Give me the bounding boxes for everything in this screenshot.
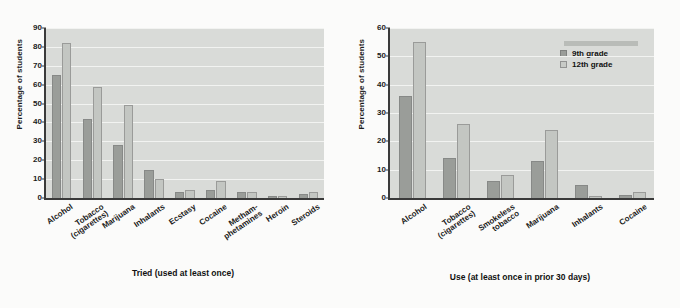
bar-group: Steroids <box>293 28 324 198</box>
bar <box>62 43 71 198</box>
bar <box>52 75 61 198</box>
chart-panel-tried: Percentage of students 01020304050607080… <box>0 0 340 308</box>
y-axis-tick-label: 80 <box>33 43 42 51</box>
bar <box>216 181 225 198</box>
bar-group: Alcohol <box>46 28 77 198</box>
bar <box>247 192 256 198</box>
bar <box>633 192 646 198</box>
bar-group: Smokelesstobacco <box>478 28 522 198</box>
y-axis-tick-label: 60 <box>33 81 42 89</box>
bar-group: Alcohol <box>390 28 434 198</box>
bar <box>309 192 318 198</box>
bar-group: Inhalants <box>566 28 610 198</box>
x-axis-tick-label: Tobacco(cigarettes) <box>432 203 477 241</box>
y-axis-tick-label: 40 <box>33 118 42 126</box>
y-axis-tick-label: 60 <box>377 24 386 32</box>
bar-group: Tobacco(cigarettes) <box>77 28 108 198</box>
bar <box>206 190 215 198</box>
bar-group: Marijuana <box>522 28 566 198</box>
y-axis-tick-label: 30 <box>33 137 42 145</box>
bar-group: Heroin <box>262 28 293 198</box>
x-axis-title-left: Tried (used at least once) <box>44 268 322 278</box>
bar <box>443 158 456 198</box>
bar <box>278 196 287 198</box>
y-axis-tick-label: 20 <box>377 137 386 145</box>
x-axis-tick-label: Inhalants <box>571 203 605 230</box>
bar <box>399 96 412 198</box>
y-axis-tick-label: 50 <box>377 52 386 60</box>
y-axis-tick-label: 40 <box>377 81 386 89</box>
bar <box>413 42 426 198</box>
bar <box>531 161 544 198</box>
bar <box>124 105 133 198</box>
y-axis-tick-label: 30 <box>377 109 386 117</box>
bar-group: Metham-phetamines <box>231 28 262 198</box>
bar <box>237 192 246 198</box>
x-axis-tick-label: Marijuana <box>525 203 561 231</box>
bar-group: Tobacco(cigarettes) <box>434 28 478 198</box>
y-axis-tick-label: 10 <box>33 175 42 183</box>
bar <box>487 181 500 198</box>
y-axis-tick-label: 90 <box>33 24 42 32</box>
y-axis-title-right: Percentage of students <box>357 40 366 130</box>
bar-group: Cocaine <box>200 28 231 198</box>
bar <box>155 179 164 198</box>
x-axis-tick-label: Cocaine <box>618 203 648 227</box>
bar <box>299 194 308 198</box>
bar-group: Marijuana <box>108 28 139 198</box>
bar <box>175 192 184 198</box>
bar <box>144 170 153 198</box>
bar <box>457 124 470 198</box>
x-axis-tick-label: Alcohol <box>399 203 428 226</box>
y-axis-tick-label: 20 <box>33 156 42 164</box>
x-axis-tick-label: Ecstasy <box>168 203 198 227</box>
plot-area-left: 0102030405060708090AlcoholTobacco(cigare… <box>44 28 324 200</box>
x-axis-tick-label: Heroin <box>265 203 291 224</box>
bar <box>83 119 92 198</box>
bar <box>268 196 277 198</box>
bar-group: Ecstasy <box>170 28 201 198</box>
y-axis-tick-label: 10 <box>377 166 386 174</box>
plot-area-right: 9th grade 12th grade 0102030405060Alcoho… <box>388 28 654 200</box>
chart-panel-use: Percentage of students 9th grade 12th gr… <box>340 0 680 308</box>
bar <box>545 130 558 198</box>
x-axis-title-right: Use (at least once in prior 30 days) <box>388 272 652 282</box>
x-axis-tick-label: Inhalants <box>133 203 167 230</box>
bar <box>93 87 102 198</box>
figure-root: Percentage of students 01020304050607080… <box>0 0 680 308</box>
bar <box>185 190 194 198</box>
bar <box>619 195 632 198</box>
bar-group: Inhalants <box>139 28 170 198</box>
bar <box>113 145 122 198</box>
x-axis-tick-label: Smokelesstobacco <box>477 203 521 240</box>
bar <box>575 185 588 198</box>
bar-group: Cocaine <box>610 28 654 198</box>
x-axis-tick-label: Steroids <box>290 203 321 228</box>
y-axis-tick-label: 50 <box>33 100 42 108</box>
y-axis-tick-label: 70 <box>33 62 42 70</box>
bar <box>501 175 514 198</box>
y-axis-title-left: Percentage of students <box>15 40 24 130</box>
bar <box>589 196 602 198</box>
